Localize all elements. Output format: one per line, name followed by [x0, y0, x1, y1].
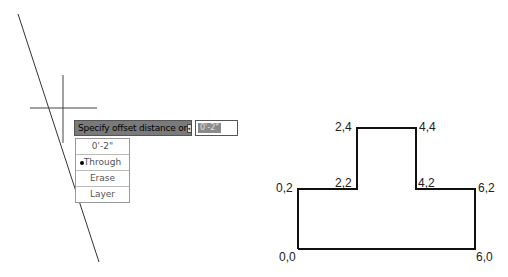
menu-item-distance[interactable]: 0'-2" [76, 139, 129, 155]
point-label: 0,0 [279, 250, 296, 264]
distance-input-value[interactable]: 0'-2" [198, 123, 221, 133]
point-label: 4,4 [419, 120, 436, 134]
point-label: 2,4 [335, 120, 352, 134]
menu-item-label: Layer [90, 189, 115, 199]
point-label: 0,2 [276, 181, 293, 195]
selected-bullet-icon [80, 161, 84, 165]
menu-item-label: 0'-2" [92, 141, 113, 151]
offset-options-menu: 0'-2" Through Erase Layer [75, 138, 130, 203]
point-label: 2,2 [335, 176, 352, 190]
menu-item-through[interactable]: Through [76, 155, 129, 171]
point-label: 6,2 [478, 181, 495, 195]
options-toggle-icon[interactable]: ▪ [187, 124, 191, 133]
prompt-text: Specify offset distance or [75, 123, 187, 133]
menu-item-erase[interactable]: Erase [76, 171, 129, 187]
menu-item-label: Through [84, 157, 121, 167]
point-label: 6,0 [476, 250, 493, 264]
menu-item-label: Erase [90, 173, 115, 183]
t-shape-polyline[interactable] [298, 128, 475, 249]
command-prompt: Specify offset distance or ▪ [74, 120, 192, 136]
point-label: 4,2 [418, 176, 435, 190]
distance-input[interactable]: 0'-2" [195, 120, 238, 136]
menu-item-layer[interactable]: Layer [76, 187, 129, 202]
